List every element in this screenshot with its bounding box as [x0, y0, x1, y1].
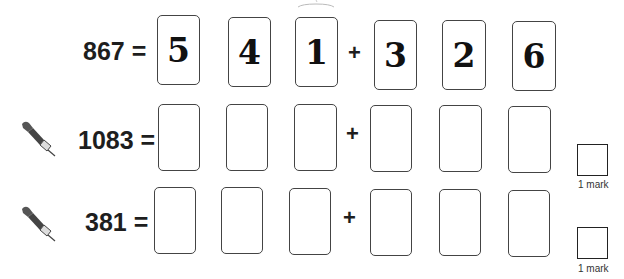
- digit: 2: [453, 39, 476, 72]
- answer-card[interactable]: [154, 187, 196, 254]
- digit: 6: [523, 40, 546, 73]
- answer-card[interactable]: [158, 104, 200, 171]
- equation-label: 867 =: [83, 39, 146, 64]
- answer-card[interactable]: [289, 188, 331, 255]
- digit: 5: [167, 34, 190, 67]
- answer-card[interactable]: [226, 104, 268, 171]
- mark-label: 1 mark: [578, 264, 609, 274]
- plus-sign: +: [348, 42, 361, 64]
- digit-card: 2: [442, 20, 486, 90]
- pen-nib-icon: [18, 118, 58, 158]
- digit-card: 1: [295, 17, 338, 87]
- digit-card: 3: [374, 20, 417, 90]
- digit: 3: [384, 39, 407, 72]
- plus-sign: +: [343, 207, 356, 229]
- pen-nib-icon: [18, 203, 58, 243]
- digit-card: 6: [512, 21, 556, 91]
- mark-label: 1 mark: [578, 180, 609, 190]
- digit-card: 5: [157, 15, 200, 85]
- equation-label: 1083 =: [78, 128, 155, 153]
- digit: 1: [305, 36, 328, 69]
- mark-box: [577, 227, 608, 259]
- answer-card[interactable]: [221, 187, 263, 254]
- answer-card[interactable]: [439, 189, 481, 256]
- answer-card[interactable]: [508, 190, 550, 257]
- equation-label: 381 =: [85, 210, 148, 235]
- digit-card: 4: [228, 17, 271, 87]
- answer-card[interactable]: [370, 105, 412, 172]
- digit: 4: [238, 36, 261, 69]
- answer-card[interactable]: [508, 106, 551, 173]
- answer-card[interactable]: [439, 105, 482, 172]
- top-edge-mark: [296, 0, 336, 8]
- plus-sign: +: [346, 123, 359, 145]
- answer-card[interactable]: [370, 189, 412, 256]
- answer-card[interactable]: [294, 104, 337, 171]
- mark-box: [577, 144, 608, 176]
